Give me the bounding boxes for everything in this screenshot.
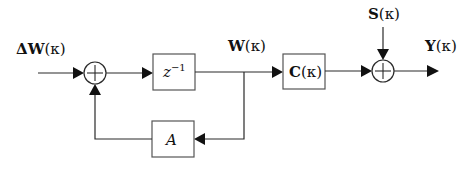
observation-input-arrow-icon <box>272 66 283 78</box>
summing-junction-2 <box>372 60 394 82</box>
summing-junction-1 <box>84 62 106 84</box>
input-arrow-icon <box>73 67 84 79</box>
svg-text:C(κ): C(κ) <box>289 63 322 81</box>
feedback-input-arrow-icon <box>194 133 205 145</box>
observation-block: C(κ) <box>283 54 325 89</box>
delay-block: z−1 <box>153 54 195 90</box>
input-signal-label: ΔW(κ) <box>16 40 66 58</box>
output-arrow-icon <box>427 65 439 77</box>
noise-signal-label: S(κ) <box>368 5 400 23</box>
state-signal-label: W(κ) <box>227 37 266 55</box>
delay-exponent: −1 <box>171 62 186 73</box>
feedback-arrow-icon <box>89 84 101 95</box>
feedback-label: A <box>164 131 177 149</box>
sum2-input-arrow-icon <box>361 65 372 77</box>
feedback-branch-wire <box>202 72 244 139</box>
output-signal-label: Y(κ) <box>424 37 457 55</box>
delay-base: z <box>162 63 171 81</box>
noise-arrow-icon <box>377 49 389 60</box>
delay-input-arrow-icon <box>142 67 153 79</box>
feedback-return-wire <box>95 92 152 139</box>
feedback-block: A <box>152 121 194 157</box>
block-diagram: ΔW(κ) z−1 W(κ) A C(κ) <box>0 0 468 169</box>
